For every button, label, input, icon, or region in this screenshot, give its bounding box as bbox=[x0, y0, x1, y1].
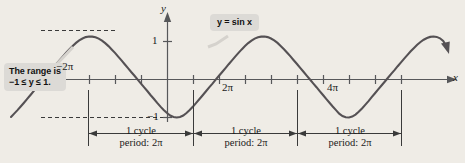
range-callout-line-2: −1 ≤ y ≤ 1. bbox=[9, 77, 61, 88]
range-callout-line-1: The range is bbox=[9, 66, 61, 77]
cycle-label-1: 1 cycle period: 2π bbox=[99, 125, 183, 150]
equation-callout-label: y = sin x bbox=[217, 17, 252, 27]
x-axis-label: x bbox=[453, 71, 458, 83]
cycle-3-title: 1 cycle bbox=[308, 125, 392, 137]
cycle-label-3: 1 cycle period: 2π bbox=[308, 125, 392, 150]
cycle-1-period: period: 2π bbox=[99, 137, 183, 149]
x-tick-label-neg-2pi: −2π bbox=[56, 60, 73, 72]
cycle-2-period: period: 2π bbox=[204, 137, 288, 149]
y-tick-label-neg1: −1 bbox=[147, 110, 159, 122]
equation-callout: y = sin x bbox=[210, 14, 259, 31]
y-tick-label-1: 1 bbox=[152, 34, 158, 46]
x-tick-label-4pi: 4π bbox=[327, 81, 338, 93]
cycle-3-period: period: 2π bbox=[308, 137, 392, 149]
y-axis-label: y bbox=[161, 2, 166, 14]
cycle-label-2: 1 cycle period: 2π bbox=[204, 125, 288, 150]
x-tick-label-2pi: 2π bbox=[222, 81, 233, 93]
cycle-1-title: 1 cycle bbox=[99, 125, 183, 137]
cycle-2-title: 1 cycle bbox=[204, 125, 288, 137]
